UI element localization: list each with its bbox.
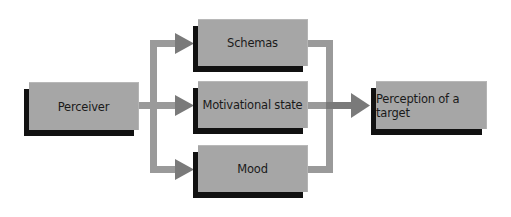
node-mood: Mood	[193, 145, 308, 198]
branch-line-mood	[150, 166, 178, 173]
node-mood-label: Mood	[198, 145, 308, 192]
arrowhead-to-mood	[175, 159, 194, 180]
node-schemas-label: Schemas	[198, 19, 308, 66]
arrowhead-to-schemas	[175, 33, 194, 54]
arrowhead-to-motivational-state	[175, 95, 194, 116]
node-schemas: Schemas	[193, 19, 308, 72]
node-perceiver: Perceiver	[24, 82, 139, 136]
node-motivational-state-label: Motivational state	[198, 81, 308, 128]
node-perception-label: Perception of a target	[376, 81, 487, 129]
branch-line-schemas	[150, 40, 178, 47]
arrowhead-to-perception	[351, 93, 370, 118]
node-perceiver-label: Perceiver	[29, 82, 139, 130]
node-perception-of-a-target: Perception of a target	[371, 81, 487, 135]
node-motivational-state: Motivational state	[193, 81, 308, 134]
left-vertical-connector	[150, 40, 157, 173]
perceiver-out-line	[138, 102, 178, 109]
perception-in-line	[326, 102, 353, 109]
